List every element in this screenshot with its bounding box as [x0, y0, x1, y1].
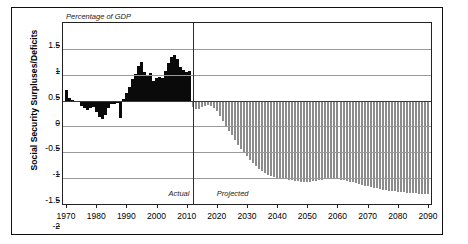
y-axis-ticks: 1.510.50-0.5-1-1.5-2 [26, 22, 60, 205]
bar-projected [388, 101, 390, 191]
bar-projected [264, 101, 266, 174]
bar-projected [267, 101, 269, 175]
x-tick-label: 2030 [238, 211, 257, 221]
x-tick-label: 1980 [87, 211, 106, 221]
y-tick-mark [56, 45, 60, 46]
bar-projected [355, 101, 357, 184]
bar-projected [261, 101, 263, 172]
x-tick-mark [126, 205, 127, 208]
x-tick-mark [247, 205, 248, 208]
bar-projected [373, 101, 375, 188]
bar-projected [364, 101, 366, 186]
bar-projected [291, 101, 293, 181]
bar-projected [367, 101, 369, 187]
gridline [63, 49, 431, 50]
x-tick-label: 2040 [268, 211, 287, 221]
bar-projected [234, 101, 236, 140]
bar-projected [246, 101, 248, 157]
x-tick-mark [187, 205, 188, 208]
x-tick-mark [217, 205, 218, 208]
x-tick-label: 2020 [207, 211, 226, 221]
bar-projected [273, 101, 275, 178]
bar-projected [376, 101, 378, 189]
y-tick-mark [56, 148, 60, 149]
bar-projected [330, 101, 332, 179]
bar-projected [324, 101, 326, 180]
gridline [63, 126, 431, 127]
y-tick-mark [56, 200, 60, 201]
x-tick-mark [398, 205, 399, 208]
gridline [63, 178, 431, 179]
bar-projected [321, 101, 323, 180]
bar-projected [255, 101, 257, 167]
x-tick-mark [307, 205, 308, 208]
annotation-actual: Actual [169, 189, 190, 198]
zero-line [63, 101, 431, 102]
y-tick-mark [56, 174, 60, 175]
x-tick-label: 1990 [117, 211, 136, 221]
plot-area: ActualProjected [62, 22, 432, 205]
bar-projected [198, 101, 200, 109]
bar-projected [421, 101, 423, 194]
bar-projected [370, 101, 372, 188]
y-tick-mark [56, 123, 60, 124]
bar-actual [119, 101, 122, 118]
bar-projected [333, 101, 335, 179]
bar-projected [288, 101, 290, 180]
x-tick-mark [96, 205, 97, 208]
y-tick-mark [56, 71, 60, 72]
bar-projected [231, 101, 233, 136]
bar-projected [282, 101, 284, 179]
bar-projected [297, 101, 299, 182]
x-tick-mark [428, 205, 429, 208]
bar-projected [201, 101, 203, 108]
bar-projected [216, 101, 218, 112]
bar-projected [427, 101, 429, 195]
x-axis-ticks: 1970198019902000201020202030204020502060… [62, 208, 432, 228]
x-tick-mark [157, 205, 158, 208]
x-tick-mark [368, 205, 369, 208]
bar-projected [252, 101, 254, 164]
x-tick-label: 2050 [298, 211, 317, 221]
chart-figure: Social Security Surpluses/Deficits Perce… [0, 0, 468, 244]
bar-projected [327, 101, 329, 180]
bar-projected [237, 101, 239, 145]
bar-projected [346, 101, 348, 181]
bar-projected [415, 101, 417, 194]
bar-projected [361, 101, 363, 185]
bar-projected [249, 101, 251, 160]
x-tick-label: 1970 [57, 211, 76, 221]
y-tick-mark [56, 226, 60, 227]
bar-projected [352, 101, 354, 183]
bar-projected [285, 101, 287, 180]
bars-layer [63, 23, 431, 204]
chart-supertitle: Percentage of GDP [66, 12, 131, 21]
bar-projected [279, 101, 281, 179]
x-tick-label: 2090 [419, 211, 438, 221]
x-tick-label: 2070 [358, 211, 377, 221]
bar-projected [318, 101, 320, 181]
x-tick-label: 2000 [147, 211, 166, 221]
bar-projected [306, 101, 308, 183]
gridline [63, 152, 431, 153]
bar-projected [343, 101, 345, 181]
x-tick-mark [337, 205, 338, 208]
bar-projected [309, 101, 311, 182]
x-tick-label: 2060 [328, 211, 347, 221]
bar-projected [303, 101, 305, 183]
bar-projected [382, 101, 384, 190]
y-tick-mark [56, 97, 60, 98]
bar-projected [240, 101, 242, 149]
bar-projected [312, 101, 314, 182]
bar-projected [340, 101, 342, 180]
bar-projected [294, 101, 296, 181]
plot-inner: ActualProjected [63, 23, 431, 204]
bar-projected [195, 101, 197, 110]
bar-projected [276, 101, 278, 178]
bar-projected [213, 101, 215, 108]
bar-projected [222, 101, 224, 121]
bar-projected [418, 101, 420, 194]
bar-projected [315, 101, 317, 181]
bar-projected [225, 101, 227, 126]
x-tick-mark [66, 205, 67, 208]
